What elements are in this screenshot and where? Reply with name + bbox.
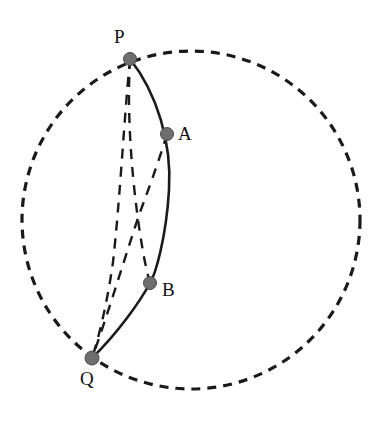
point-marker-a [161,128,174,141]
figure-canvas [0,0,389,422]
point-marker-b [144,277,157,290]
point-label-q: Q [80,369,94,388]
point-label-b: B [162,280,175,299]
point-marker-q [85,351,99,365]
point-label-p: P [114,27,125,46]
geometry-figure: PABQ [0,0,389,422]
point-label-a: A [178,124,192,143]
figure-background [0,0,389,422]
point-marker-p [124,53,137,66]
